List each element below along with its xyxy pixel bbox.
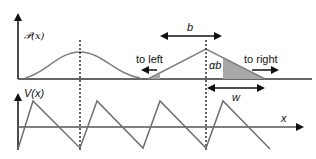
to-right-label: to right <box>244 54 278 65</box>
gaussian-curve <box>25 52 140 78</box>
sawtooth-potential <box>18 101 270 149</box>
diagram-canvas <box>0 0 316 159</box>
w-label: w <box>232 92 240 103</box>
x-axis-label: x <box>281 113 287 124</box>
to-left-label: to left <box>136 54 163 65</box>
potential-axis-label: V(x) <box>24 88 44 99</box>
b-label: b <box>187 22 193 33</box>
probability-axis-label: 𝒫(x) <box>24 31 44 41</box>
alpha-b-label: αb <box>209 60 221 71</box>
bottom-axes <box>18 95 302 150</box>
